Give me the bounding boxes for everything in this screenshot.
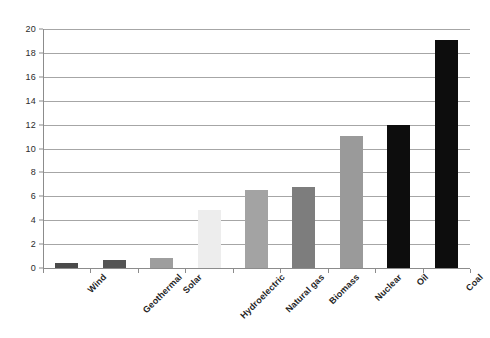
x-tick-label-hydroelectric: Hydroelectric	[238, 272, 287, 321]
bar-oil	[387, 125, 410, 268]
x-tick-label-geothermal: Geothermal	[141, 272, 184, 315]
bars-layer	[43, 29, 470, 268]
y-tick-label: 2	[31, 239, 36, 249]
x-axis-labels: WindGeothermalSolarHydroelectricNatural …	[43, 272, 470, 338]
y-tick-label: 18	[26, 48, 36, 58]
bar-chart: 02468101214161820 WindGeothermalSolarHyd…	[0, 0, 490, 338]
y-tick-label: 16	[26, 72, 36, 82]
y-tick-label: 12	[26, 120, 36, 130]
y-tick-label: 0	[31, 263, 36, 273]
y-tick-label: 10	[26, 144, 36, 154]
bar-wind	[55, 263, 78, 268]
x-tick-mark	[470, 269, 471, 273]
x-tick-label-biomass: Biomass	[327, 272, 361, 306]
bar-geothermal	[103, 260, 126, 268]
y-tick-label: 6	[31, 191, 36, 201]
x-tick-label-coal: Coal	[464, 272, 485, 293]
x-tick-label-solar: Solar	[180, 272, 203, 295]
y-tick-label: 20	[26, 24, 36, 34]
y-axis-labels: 02468101214161820	[0, 29, 36, 268]
bar-hydroelectric	[198, 210, 221, 268]
y-tick-label: 14	[26, 96, 36, 106]
bar-natural-gas	[245, 190, 268, 268]
bar-biomass	[292, 187, 315, 268]
bar-solar	[150, 258, 173, 268]
x-tick-label-oil: Oil	[414, 272, 430, 288]
bar-coal	[435, 40, 458, 268]
x-tick-label-natural-gas: Natural gas	[283, 272, 326, 315]
x-tick-label-wind: Wind	[85, 272, 108, 295]
bar-nuclear	[340, 136, 363, 268]
y-tick-label: 8	[31, 167, 36, 177]
x-tick-label-nuclear: Nuclear	[373, 272, 404, 303]
y-tick-label: 4	[31, 215, 36, 225]
